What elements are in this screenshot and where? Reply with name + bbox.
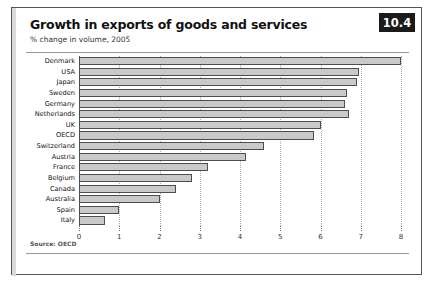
x-tick-label-7: 7: [359, 233, 363, 241]
tick-mark-8: [401, 226, 402, 231]
bar-row: Denmark: [79, 56, 401, 67]
figure-subtitle: % change in volume, 2005: [30, 35, 130, 44]
bar-sweden: [79, 89, 347, 97]
bars-group: DenmarkUSAJapanSwedenGermanyNetherlandsU…: [79, 56, 401, 226]
tick-mark-1: [119, 226, 120, 231]
bar-row: Netherlands: [79, 109, 401, 120]
footer-divider: [26, 253, 409, 254]
category-label-italy: Italy: [61, 215, 75, 226]
plot-area: DenmarkUSAJapanSwedenGermanyNetherlandsU…: [79, 56, 401, 226]
bar-uk: [79, 121, 321, 129]
tick-mark-2: [160, 226, 161, 231]
bar-canada: [79, 185, 176, 193]
category-label-netherlands: Netherlands: [35, 109, 75, 120]
x-tick-label-2: 2: [157, 233, 161, 241]
bar-row: USA: [79, 67, 401, 78]
tick-mark-5: [280, 226, 281, 231]
gridline-8: [401, 56, 402, 226]
bar-switzerland: [79, 142, 264, 150]
chart-page: Growth in exports of goods and services …: [0, 0, 433, 282]
category-label-australia: Australia: [46, 194, 75, 205]
bar-row: Australia: [79, 194, 401, 205]
bar-germany: [79, 100, 345, 108]
bar-row: UK: [79, 120, 401, 131]
bar-denmark: [79, 57, 401, 65]
bar-france: [79, 163, 208, 171]
bar-row: Germany: [79, 99, 401, 110]
category-label-uk: UK: [66, 120, 75, 131]
figure-title: Growth in exports of goods and services: [30, 17, 307, 32]
header-divider: [26, 52, 409, 53]
left-accent-bar: [12, 8, 16, 276]
tick-mark-3: [200, 226, 201, 231]
tick-mark-4: [240, 226, 241, 231]
source-note: Source: OECD: [30, 240, 76, 247]
x-tick-label-0: 0: [77, 233, 81, 241]
x-tick-label-5: 5: [278, 233, 282, 241]
x-tick-label-6: 6: [318, 233, 322, 241]
category-label-canada: Canada: [50, 184, 75, 195]
bar-row: Spain: [79, 205, 401, 216]
category-label-switzerland: Switzerland: [37, 141, 75, 152]
x-tick-label-3: 3: [198, 233, 202, 241]
x-tick-label-1: 1: [117, 233, 121, 241]
figure-number-badge: 10.4: [379, 13, 415, 32]
bar-usa: [79, 68, 359, 76]
category-label-sweden: Sweden: [49, 88, 75, 99]
bar-austria: [79, 153, 246, 161]
category-label-japan: Japan: [57, 77, 75, 88]
bar-australia: [79, 195, 160, 203]
bar-oecd: [79, 131, 314, 139]
bar-belgium: [79, 174, 192, 182]
category-label-spain: Spain: [57, 205, 75, 216]
category-label-usa: USA: [61, 67, 75, 78]
x-tick-label-4: 4: [238, 233, 242, 241]
bar-japan: [79, 78, 357, 86]
tick-mark-6: [321, 226, 322, 231]
bar-row: Canada: [79, 184, 401, 195]
bar-spain: [79, 206, 119, 214]
category-label-germany: Germany: [45, 99, 75, 110]
category-label-france: France: [53, 162, 75, 173]
figure-card: Growth in exports of goods and services …: [11, 7, 422, 275]
bar-netherlands: [79, 110, 349, 118]
category-label-oecd: OECD: [56, 130, 75, 141]
category-label-austria: Austria: [52, 152, 75, 163]
bar-row: Belgium: [79, 173, 401, 184]
bar-row: Japan: [79, 77, 401, 88]
x-tick-label-8: 8: [399, 233, 403, 241]
bar-italy: [79, 216, 105, 224]
bar-row: OECD: [79, 130, 401, 141]
bar-row: Italy: [79, 215, 401, 226]
category-label-belgium: Belgium: [48, 173, 75, 184]
bar-row: Sweden: [79, 88, 401, 99]
category-label-denmark: Denmark: [45, 56, 75, 67]
bar-row: Switzerland: [79, 141, 401, 152]
bar-row: Austria: [79, 152, 401, 163]
tick-mark-7: [361, 226, 362, 231]
tick-mark-0: [79, 226, 80, 231]
bar-row: France: [79, 162, 401, 173]
